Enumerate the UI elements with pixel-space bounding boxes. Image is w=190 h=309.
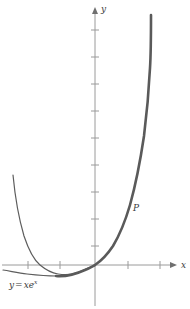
curve-p-label: P	[132, 203, 140, 213]
y-axis-arrow-icon	[92, 7, 98, 14]
x-axis-label: x	[181, 260, 186, 270]
graph-figure: P y x y=xex	[0, 0, 190, 309]
equation-label: y=xex	[9, 281, 37, 290]
x-axis-arrow-icon	[170, 262, 177, 268]
equation-base: xe	[24, 280, 34, 290]
plot-canvas: P y x	[0, 0, 190, 309]
equation-operator: =	[14, 280, 24, 290]
equation-exponent: x	[34, 278, 37, 285]
y-axis-label: y	[100, 4, 107, 14]
curve-p	[56, 15, 151, 276]
curve-xe-to-the-x	[13, 175, 95, 275]
